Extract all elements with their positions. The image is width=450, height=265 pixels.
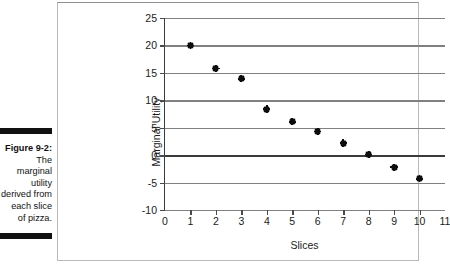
- y-axis-tick: [160, 210, 165, 211]
- caption-line-4: derived from: [0, 189, 52, 201]
- gridline: [165, 128, 445, 129]
- y-axis-tick-label: 25: [145, 12, 157, 24]
- x-axis-tick-label: 7: [340, 215, 346, 227]
- x-axis-tick-label: 8: [366, 215, 372, 227]
- x-axis-tick-label: 2: [213, 215, 219, 227]
- data-point: [366, 152, 371, 157]
- zero-axis-line: [165, 155, 445, 157]
- data-point: [239, 76, 244, 81]
- figure-frame: Marginal Utility Slices 2520151050-5-100…: [57, 2, 419, 261]
- gridline: [165, 73, 445, 74]
- y-axis-tick-label: 15: [145, 67, 157, 79]
- data-point: [213, 66, 218, 71]
- figure-caption-text: Figure 9-2: The marginal utility derived…: [0, 143, 52, 224]
- x-axis-tick-label: 0: [162, 215, 168, 227]
- y-axis-tick-label: 20: [145, 39, 157, 51]
- y-axis-tick-label: 5: [151, 122, 157, 134]
- x-axis-tick-label: 5: [289, 215, 295, 227]
- data-point: [315, 129, 320, 134]
- caption-line-3: utility: [0, 178, 52, 190]
- caption-rule-top: [0, 128, 52, 134]
- y-axis-tick-label: 10: [145, 94, 157, 106]
- data-point: [392, 165, 397, 170]
- gridline: [165, 45, 445, 46]
- caption-figure-number: Figure 9-2:: [0, 143, 52, 155]
- y-axis-tick-label: -5: [148, 177, 157, 189]
- caption-line-5: each slice: [0, 201, 52, 213]
- data-point: [264, 107, 269, 112]
- x-axis-tick-label: 11: [440, 215, 450, 227]
- data-point: [290, 119, 295, 124]
- y-axis-tick-label: -10: [142, 204, 157, 216]
- y-axis-tick: [160, 128, 165, 129]
- plot-area: 2520151050-5-1001234567891011: [164, 18, 445, 211]
- x-axis-tick-label: 4: [264, 215, 270, 227]
- y-axis-tick: [160, 45, 165, 46]
- figure-caption-block: Figure 9-2: The marginal utility derived…: [0, 128, 52, 239]
- data-point: [417, 176, 422, 181]
- y-axis-tick: [160, 155, 165, 156]
- y-axis-tick: [160, 18, 165, 19]
- x-axis-title: Slices: [164, 239, 445, 251]
- data-point: [188, 43, 193, 48]
- x-axis-tick-label: 9: [391, 215, 397, 227]
- x-axis-tick-label: 3: [238, 215, 244, 227]
- data-point: [341, 141, 346, 146]
- x-axis-tick-label: 1: [188, 215, 194, 227]
- y-axis-tick: [160, 73, 165, 74]
- caption-line-1: The: [0, 155, 52, 167]
- y-axis-tick: [160, 100, 165, 101]
- y-axis-tick-label: 0: [151, 149, 157, 161]
- gridline: [165, 183, 445, 184]
- gridline: [165, 100, 445, 101]
- caption-line-6: of pizza.: [0, 213, 52, 225]
- gridline: [165, 210, 445, 211]
- x-axis-tick-label: 10: [414, 215, 426, 227]
- y-axis-tick: [160, 183, 165, 184]
- caption-line-2: marginal: [0, 166, 52, 178]
- x-axis-tick-label: 6: [315, 215, 321, 227]
- caption-rule-bottom: [0, 233, 52, 239]
- gridline: [165, 18, 445, 19]
